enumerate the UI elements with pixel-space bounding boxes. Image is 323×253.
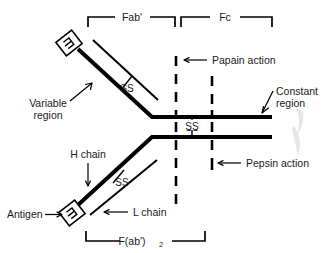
l-chain-label: L chain <box>133 206 167 218</box>
antibody-structure-svg: Fab' Fc SS <box>0 0 323 253</box>
antibody-diagram: Fab' Fc SS <box>0 0 323 253</box>
variable-region-label-line1: Variable <box>29 97 67 109</box>
constant-region-label-line1: Constant <box>276 85 318 97</box>
antigen-label: Antigen <box>7 208 43 220</box>
pepsin-action-label: Pepsin action <box>246 157 309 169</box>
h-chain-label: H chain <box>70 148 106 160</box>
constant-region-label-line2: region <box>276 97 305 109</box>
bracket-fc-label: Fc <box>219 11 231 23</box>
lower-ss-label: SS <box>115 177 129 188</box>
bracket-fab-label: Fab' <box>122 11 142 23</box>
papain-action-label: Papain action <box>212 54 276 66</box>
bracket-fab2-label: F(ab') <box>118 235 145 247</box>
upper-ss-label: SS <box>120 83 134 94</box>
center-ss-label-fg: SS <box>185 121 199 132</box>
bracket-fab2-subscript: 2 <box>159 240 163 249</box>
variable-region-label-line2: region <box>33 109 62 121</box>
